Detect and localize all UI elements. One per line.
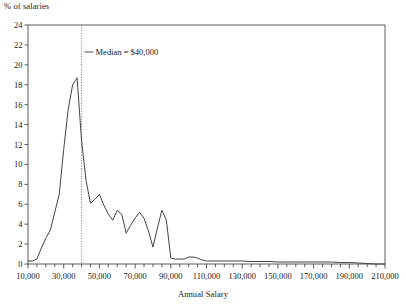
x-tick-label: 190,000	[335, 271, 363, 281]
y-tick-label: 14	[14, 120, 23, 130]
y-tick-label: 24	[14, 20, 23, 30]
y-tick-label: 22	[14, 40, 23, 50]
x-tick-label: 90,000	[159, 271, 182, 281]
y-tick-label: 16	[14, 100, 23, 110]
x-tick-label: 10,000	[16, 271, 39, 281]
y-tick-label: 20	[14, 60, 23, 70]
x-tick-label: 130,000	[228, 271, 256, 281]
x-tick-label: 150,000	[264, 271, 292, 281]
y-tick-label: 6	[18, 199, 22, 209]
y-tick-label: 18	[14, 80, 23, 90]
x-tick-label: 170,000	[300, 271, 328, 281]
y-tick-label: 12	[14, 140, 23, 150]
median-legend-label: Median = $40,000	[96, 47, 159, 57]
x-tick-label: 110,000	[193, 271, 220, 281]
x-tick-label: 70,000	[123, 271, 146, 281]
y-tick-label: 0	[18, 259, 22, 269]
x-axis-title: Annual Salary	[0, 289, 406, 299]
y-tick-label: 4	[18, 219, 23, 229]
y-tick-label: 2	[18, 239, 22, 249]
x-tick-label: 30,000	[52, 271, 75, 281]
chart-plot: 02468101214161820222410,00030,00050,0007…	[0, 0, 406, 306]
x-tick-label: 50,000	[88, 271, 111, 281]
chart-container: % of salaries 02468101214161820222410,00…	[0, 0, 406, 306]
y-tick-label: 10	[14, 159, 23, 169]
x-tick-label: 210,000	[371, 271, 399, 281]
y-tick-label: 8	[18, 179, 22, 189]
